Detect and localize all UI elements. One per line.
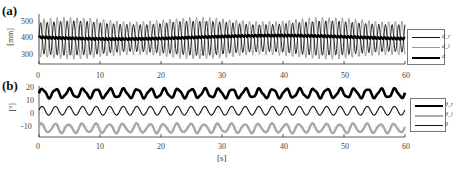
legend-b-label-thr: θ_r <box>445 101 453 107</box>
legend-a-swatch-dr <box>412 37 440 38</box>
legend-a-swatch-dl <box>412 47 440 48</box>
legend-a-label-dr: d_r <box>442 33 450 39</box>
legend-a-label-d: d <box>442 53 445 59</box>
legend-a-swatch-d <box>412 57 440 59</box>
legend-a: d_r d_l d <box>407 29 445 65</box>
legend-b-swatch-th <box>415 125 443 126</box>
legend-b-label-th: θ <box>445 121 448 127</box>
legend-b-swatch-thr <box>415 105 443 107</box>
legend-b-label-thl: θ_l <box>445 111 453 117</box>
legend-a-label-dl: d_l <box>442 43 450 49</box>
legend-b-swatch-thl <box>415 115 443 117</box>
legend-b: θ_r θ_l θ <box>410 98 446 132</box>
